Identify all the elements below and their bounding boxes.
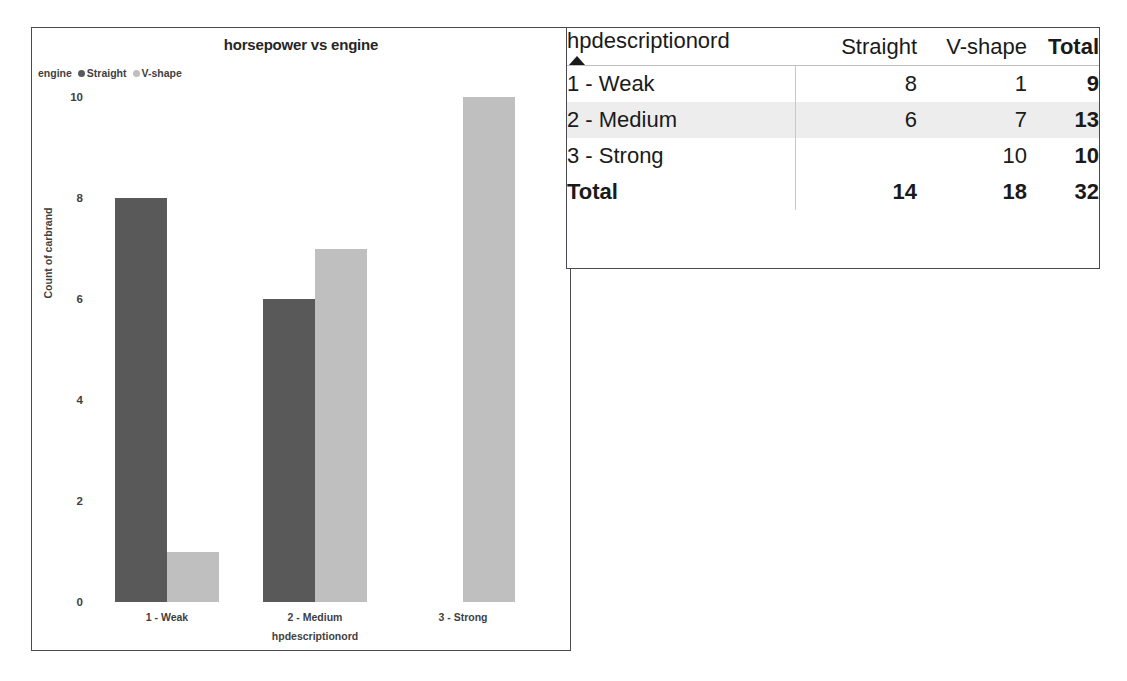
column-header-straight[interactable]: Straight (795, 28, 917, 65)
pivot-table-panel: hpdescriptionord Straight V-shape Total … (566, 27, 1100, 269)
bar-group (389, 97, 537, 602)
bars-layer (93, 97, 537, 602)
bar-v-shape[interactable] (315, 249, 367, 603)
cell-vshape[interactable]: 18 (917, 174, 1027, 210)
cell-vshape[interactable]: 1 (917, 66, 1027, 102)
y-tick-label: 6 (77, 293, 83, 305)
table-row: 2 - Medium6713 (567, 102, 1099, 138)
y-tick-label: 8 (77, 192, 83, 204)
row-label[interactable]: Total (567, 174, 795, 210)
y-tick-label: 2 (77, 495, 83, 507)
column-header-rowfield-label: hpdescriptionord (567, 28, 730, 53)
cell-straight[interactable]: 8 (795, 66, 917, 102)
column-header-rowfield[interactable]: hpdescriptionord (567, 28, 795, 65)
legend-dot-vshape (133, 70, 140, 77)
y-tick-label: 0 (77, 596, 83, 608)
legend-label-vshape: V-shape (142, 67, 182, 79)
row-label[interactable]: 2 - Medium (567, 102, 795, 138)
y-tick-label: 10 (70, 91, 83, 103)
cell-straight[interactable]: 14 (795, 174, 917, 210)
cell-total[interactable]: 32 (1027, 174, 1099, 210)
column-header-straight-label: Straight (841, 34, 917, 59)
legend-label-straight: Straight (87, 67, 127, 79)
sort-ascending-icon[interactable] (569, 56, 585, 65)
table-header-row: hpdescriptionord Straight V-shape Total (567, 28, 1099, 65)
cell-total[interactable]: 10 (1027, 138, 1099, 174)
column-header-total-label: Total (1048, 34, 1099, 59)
y-axis-title: Count of carbrand (42, 153, 54, 353)
x-tick-label: 2 - Medium (245, 611, 385, 623)
bar-group (93, 97, 241, 602)
cell-total[interactable]: 9 (1027, 66, 1099, 102)
pivot-table: hpdescriptionord Straight V-shape Total … (567, 28, 1099, 210)
legend-item-straight[interactable]: Straight (78, 67, 127, 79)
pivot-table-body: 1 - Weak8192 - Medium67133 - Strong1010T… (567, 66, 1099, 210)
bar-straight[interactable] (263, 299, 315, 602)
chart-panel: horsepower vs engine engine Straight V-s… (31, 27, 571, 651)
cell-vshape[interactable]: 7 (917, 102, 1027, 138)
y-tick-label: 4 (77, 394, 83, 406)
row-label[interactable]: 3 - Strong (567, 138, 795, 174)
legend-item-vshape[interactable]: V-shape (133, 67, 182, 79)
chart-title: horsepower vs engine (32, 36, 570, 53)
legend-field-label: engine (38, 67, 72, 79)
x-tick-label: 1 - Weak (97, 611, 237, 623)
bar-v-shape[interactable] (463, 97, 515, 602)
cell-vshape[interactable]: 10 (917, 138, 1027, 174)
x-tick-label: 3 - Strong (393, 611, 533, 623)
table-row: 1 - Weak819 (567, 66, 1099, 102)
table-total-row: Total141832 (567, 174, 1099, 210)
legend-dot-straight (78, 70, 85, 77)
column-header-vshape-label: V-shape (946, 34, 1027, 59)
cell-total[interactable]: 13 (1027, 102, 1099, 138)
chart-legend: engine Straight V-shape (38, 67, 182, 79)
column-header-total[interactable]: Total (1027, 28, 1099, 65)
column-header-vshape[interactable]: V-shape (917, 28, 1027, 65)
row-label[interactable]: 1 - Weak (567, 66, 795, 102)
bar-v-shape[interactable] (167, 552, 219, 603)
table-row: 3 - Strong1010 (567, 138, 1099, 174)
bar-group (241, 97, 389, 602)
plot-area: Count of carbrand 0246810 1 - Weak2 - Me… (93, 97, 537, 602)
bar-straight[interactable] (115, 198, 167, 602)
cell-straight[interactable] (795, 138, 917, 174)
pivot-table-header: hpdescriptionord Straight V-shape Total (567, 28, 1099, 66)
x-axis-title: hpdescriptionord (93, 630, 537, 642)
cell-straight[interactable]: 6 (795, 102, 917, 138)
